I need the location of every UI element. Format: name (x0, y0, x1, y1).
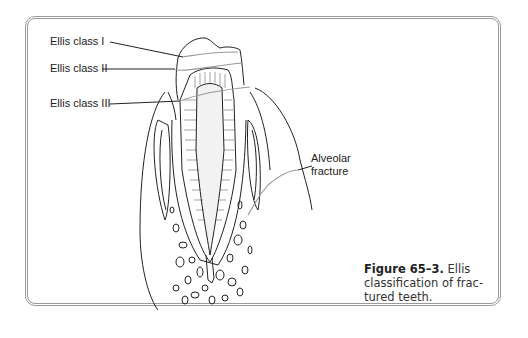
label-alveolar-line1: Alveolar (311, 152, 351, 164)
leader-line-alveolar (298, 166, 312, 170)
label-alveolar-line2: fracture (311, 165, 348, 177)
figure-caption: Figure 65–3. Ellis classification of fra… (364, 262, 494, 304)
caption-line2: classification of frac- (364, 276, 494, 290)
caption-line3: tured teeth. (364, 290, 494, 304)
caption-line1: Ellis (444, 262, 471, 276)
leader-line-class3 (110, 101, 180, 104)
fracture-alveolar (268, 170, 298, 185)
figure-number: Figure 65–3. (364, 262, 444, 276)
label-ellis-class-3: Ellis class III (50, 97, 111, 109)
label-ellis-class-2: Ellis class II (50, 62, 107, 74)
fracture-class2 (175, 63, 243, 70)
fracture-class1 (183, 52, 238, 57)
label-ellis-class-1: Ellis class I (50, 35, 104, 47)
leader-line-class1 (110, 42, 183, 57)
